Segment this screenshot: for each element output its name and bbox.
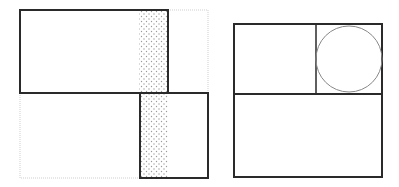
dotted-strip-top xyxy=(139,11,168,93)
left-figure xyxy=(20,10,208,178)
diagram-canvas xyxy=(0,0,399,187)
dotted-strip-bottom xyxy=(141,94,168,178)
outer-square xyxy=(234,24,382,177)
inscribed-circle xyxy=(316,26,382,92)
diagram-svg xyxy=(0,0,399,187)
right-figure xyxy=(234,24,382,177)
